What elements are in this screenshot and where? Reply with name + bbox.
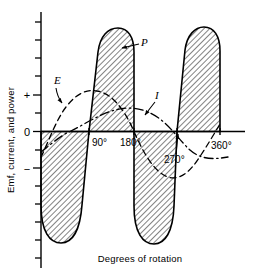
y-tick-label-plus: + [24,89,30,101]
y-tick-label-minus: − [24,163,30,175]
power-lobe-positive-1 [89,28,134,132]
power-lobe-negative-2 [134,132,177,245]
y-axis-title: Emf, current, and power [5,87,16,193]
x-tick-label-360: 360° [211,140,232,151]
power-curve-label: P [140,36,148,48]
current-curve-label: I [154,89,160,101]
power-lobe-negative-1 [41,132,89,244]
power-waveform-figure: + 0 − 90° 180° 270° 360° P E I Degrees o… [0,0,258,276]
y-tick-label-zero: 0 [24,126,30,138]
emf-label-leader [56,88,62,103]
x-tick-label-180: 180° [120,137,141,148]
x-tick-label-90: 90° [92,137,107,148]
current-label-leader [145,102,155,115]
chart-svg: + 0 − 90° 180° 270° 360° P E I Degrees o… [0,0,258,276]
emf-curve-label: E [53,74,61,86]
x-tick-label-270: 270° [164,154,185,165]
power-curve [41,27,220,244]
power-lobe-positive-2 [177,27,220,132]
y-axis-ticks [33,22,41,258]
x-axis-title: Degrees of rotation [98,253,183,264]
